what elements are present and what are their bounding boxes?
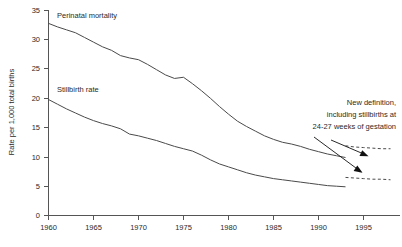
chart-canvas: 35 30 25 20 15 10 5 0 1960 1965 1970 197… (0, 0, 402, 247)
series-label-stillbirth-rate: Stillbirth rate (57, 85, 99, 94)
series-label-perinatal-mortality: Perinatal mortality (57, 11, 117, 20)
annotation-arrow-lower (314, 137, 363, 173)
x-tick-label-1975: 1975 (175, 223, 192, 232)
x-tick-label-1990: 1990 (310, 223, 327, 232)
x-tick-label-1960: 1960 (40, 223, 57, 232)
x-tick-label-1980: 1980 (220, 223, 237, 232)
y-tick-label-25: 25 (32, 64, 40, 73)
y-tick-label-10: 10 (32, 153, 40, 162)
x-tick-label-1965: 1965 (85, 223, 102, 232)
y-axis-ticks (44, 11, 49, 216)
y-axis-title: Rate per 1,000 total births (7, 69, 16, 156)
perinatal-mortality-chart: 35 30 25 20 15 10 5 0 1960 1965 1970 197… (0, 0, 402, 247)
y-tick-label-0: 0 (36, 211, 40, 220)
annotation-line-2: including stillbirths at (327, 110, 397, 119)
annotation-line-1: New definition, (347, 98, 396, 107)
x-tick-label-1970: 1970 (130, 223, 147, 232)
dashed-series-line-0 (346, 146, 391, 149)
y-tick-label-30: 30 (32, 35, 40, 44)
annotation-line-3: 24-27 weeks of gestation (313, 122, 396, 131)
y-tick-label-20: 20 (32, 94, 40, 103)
dashed-series-line-1 (346, 177, 391, 179)
new-definition-annotation: New definition, including stillbirths at… (313, 98, 397, 131)
y-tick-label-35: 35 (32, 6, 40, 15)
x-tick-label-1985: 1985 (265, 223, 282, 232)
y-tick-label-15: 15 (32, 123, 40, 132)
x-tick-label-1995: 1995 (355, 223, 372, 232)
series-line-1 (49, 100, 346, 187)
x-axis-ticks (49, 216, 364, 221)
data-series-layer (49, 23, 391, 186)
y-tick-label-5: 5 (36, 182, 40, 191)
